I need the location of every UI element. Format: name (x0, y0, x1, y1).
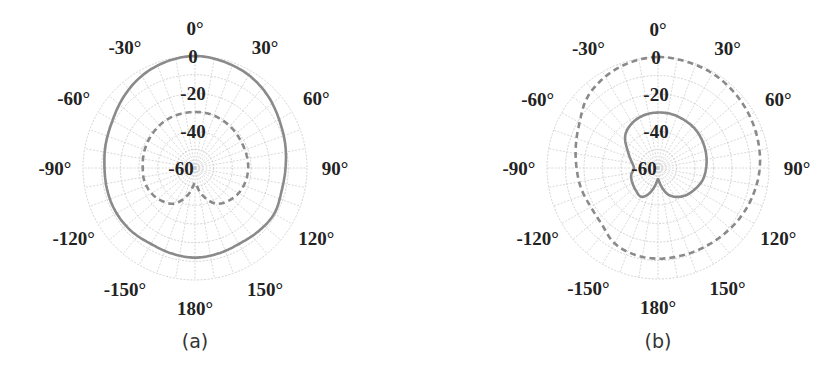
angle-tick-label: -30° (572, 38, 605, 59)
radial-tick-label: -20 (643, 84, 668, 105)
radial-tick-label: -60 (631, 158, 656, 179)
radial-tick-label: 0 (651, 47, 661, 68)
angle-tick-label: 0° (649, 19, 666, 40)
angle-tick-label: 180° (640, 297, 676, 318)
grid-spoke (658, 83, 729, 168)
angle-tick-label: -120° (516, 228, 558, 249)
angle-tick-label: 120° (760, 228, 796, 249)
radial-tick-label: -40 (643, 121, 668, 142)
grid-spoke (658, 168, 729, 253)
angle-tick-label: -60° (521, 89, 554, 110)
angle-tick-label: -90° (503, 158, 536, 179)
angle-tick-label: -150° (567, 278, 609, 299)
angle-tick-label: 90° (784, 158, 811, 179)
angle-tick-label: 60° (765, 89, 792, 110)
caption-b: (b) (645, 330, 672, 352)
angle-tick-label: 150° (709, 278, 745, 299)
polar-chart-b: 0-20-40-600°30°60°90°120°150°180°-150°-1… (0, 0, 835, 378)
angle-tick-label: 30° (714, 38, 741, 59)
panel-b: 0-20-40-600°30°60°90°120°150°180°-150°-1… (0, 0, 835, 378)
